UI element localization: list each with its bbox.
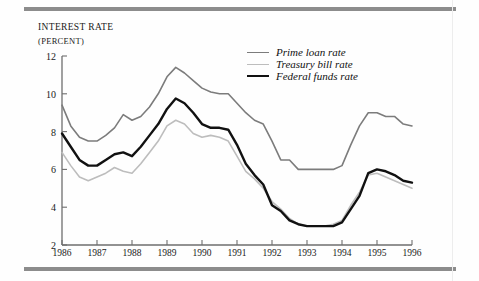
x-tick-label: 1994 <box>322 248 362 258</box>
y-tick-label: 4 <box>36 202 56 213</box>
x-tick-label: 1993 <box>287 248 327 258</box>
chart-legend: Prime loan rateTreasury bill rateFederal… <box>247 46 358 82</box>
figure-page: Interest rate (percent) 24681012 1986198… <box>0 0 479 281</box>
x-tick-label: 1988 <box>112 248 152 258</box>
x-tick-label: 1987 <box>77 248 117 258</box>
legend-label: Federal funds rate <box>276 70 358 82</box>
x-tick-label: 1996 <box>392 248 432 258</box>
legend-label: Prime loan rate <box>276 46 346 58</box>
legend-item: Federal funds rate <box>247 70 358 82</box>
series-line-treasury-bill-rate <box>62 120 412 226</box>
line-chart <box>0 0 479 281</box>
legend-label: Treasury bill rate <box>276 58 353 70</box>
y-tick-label: 10 <box>36 88 56 99</box>
legend-swatch-icon <box>247 52 269 53</box>
legend-item: Treasury bill rate <box>247 58 358 70</box>
x-tick-label: 1990 <box>182 248 222 258</box>
x-tick-label: 1992 <box>252 248 292 258</box>
x-tick-label: 1991 <box>217 248 257 258</box>
legend-item: Prime loan rate <box>247 46 358 58</box>
y-tick-label: 12 <box>36 51 56 62</box>
x-tick-label: 1986 <box>42 248 82 258</box>
x-tick-label: 1989 <box>147 248 187 258</box>
legend-swatch-icon <box>247 75 269 77</box>
legend-swatch-icon <box>247 64 269 65</box>
y-tick-label: 8 <box>36 126 56 137</box>
x-tick-label: 1995 <box>357 248 397 258</box>
y-tick-label: 6 <box>36 164 56 175</box>
series-line-federal-funds-rate <box>62 99 412 227</box>
